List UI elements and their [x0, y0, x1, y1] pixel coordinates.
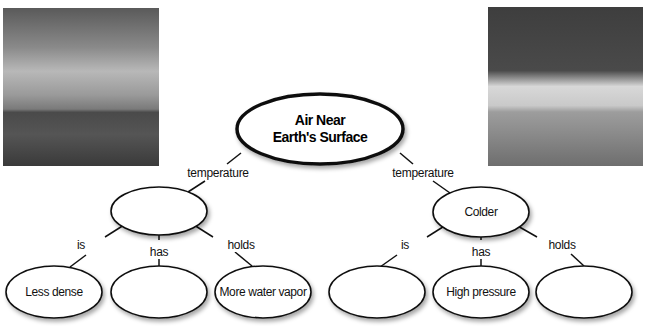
link-left-temperature: temperature	[185, 166, 250, 180]
link-right-has: has	[470, 245, 492, 259]
main-node: Air Near Earth's Surface	[273, 112, 368, 146]
link-right-holds: holds	[546, 238, 577, 252]
right-has-node: High pressure	[446, 285, 516, 299]
concept-map-lines	[0, 0, 646, 326]
link-left-is: is	[75, 238, 87, 252]
link-left-holds: holds	[225, 238, 256, 252]
left-holds-node: More water vapor	[220, 285, 307, 299]
left-is-node: Less dense	[25, 285, 82, 299]
main-node-line2: Earth's Surface	[273, 129, 368, 146]
right-middle-node: Colder	[465, 205, 498, 219]
main-node-line1: Air Near	[273, 112, 368, 129]
link-left-has: has	[148, 245, 170, 259]
link-right-is: is	[399, 238, 411, 252]
link-right-temperature: temperature	[390, 166, 455, 180]
